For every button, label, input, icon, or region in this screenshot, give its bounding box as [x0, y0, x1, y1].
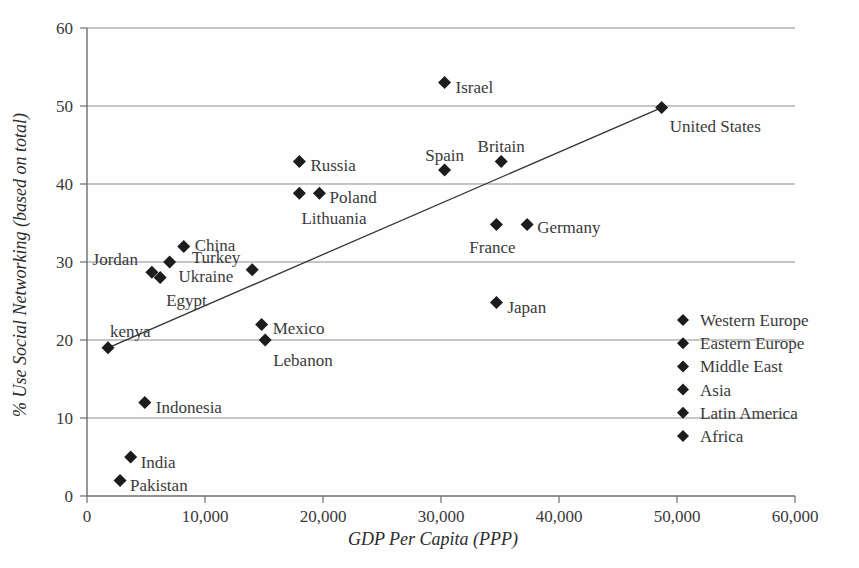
data-point-label: Jordan: [93, 250, 139, 269]
x-axis-tick-labels: 010,00020,00030,00040,00050,00060,000: [83, 507, 819, 526]
legend-marker-5: [677, 430, 689, 442]
data-point-marker: [114, 474, 127, 487]
data-point-marker: [124, 451, 137, 464]
x-axis-title: GDP Per Capita (PPP): [348, 529, 518, 550]
x-tick-label-1: 10,000: [182, 507, 229, 526]
y-tick-label-0: 0: [65, 487, 74, 506]
legend-marker-2: [677, 360, 689, 372]
data-point-label: Turkey: [192, 248, 241, 267]
legend-marker-4: [677, 407, 689, 419]
data-point-label: United States: [670, 117, 761, 136]
x-tick-label-5: 50,000: [654, 507, 701, 526]
data-point-marker: [163, 256, 176, 269]
data-point-label: Japan: [507, 298, 546, 317]
legend-label-5: Africa: [700, 427, 744, 446]
data-point-marker: [313, 187, 326, 200]
data-point-marker: [490, 296, 503, 309]
x-tick-label-4: 40,000: [536, 507, 583, 526]
data-point-marker: [102, 341, 115, 354]
x-tick-label-3: 30,000: [418, 507, 465, 526]
legend-marker-1: [677, 337, 689, 349]
data-points: PakistanIndiaIndonesiakenyaJordanEgyptUk…: [93, 76, 761, 495]
legend: Western EuropeEastern EuropeMiddle EastA…: [677, 311, 809, 446]
data-point-marker: [259, 334, 272, 347]
data-point-label: kenya: [110, 322, 151, 341]
data-point-marker: [255, 318, 268, 331]
data-point-marker: [293, 187, 306, 200]
data-point-label: Poland: [329, 188, 377, 207]
axes: [80, 28, 795, 503]
data-point-label: Lebanon: [273, 351, 333, 370]
legend-marker-3: [677, 384, 689, 396]
data-point-marker: [490, 218, 503, 231]
data-point-label: India: [141, 453, 176, 472]
data-point-marker: [655, 101, 668, 114]
y-tick-label-3: 30: [56, 253, 73, 272]
data-point-label: Lithuania: [301, 209, 367, 228]
data-point-marker: [521, 218, 534, 231]
x-tick-label-2: 20,000: [300, 507, 347, 526]
data-point-label: Ukraine: [179, 267, 234, 286]
legend-marker-0: [677, 314, 689, 326]
scatter-plot: 010,00020,00030,00040,00050,00060,000 01…: [0, 0, 859, 568]
chart-container: 010,00020,00030,00040,00050,00060,000 01…: [0, 0, 859, 568]
data-point-label: France: [469, 238, 515, 257]
data-point-marker: [438, 163, 451, 176]
data-point-marker: [246, 263, 259, 276]
data-point-marker: [495, 155, 508, 168]
data-point-label: Britain: [478, 137, 526, 156]
data-point-marker: [293, 155, 306, 168]
legend-label-0: Western Europe: [700, 311, 809, 330]
data-point-label: Mexico: [273, 319, 325, 338]
data-point-marker: [438, 76, 451, 89]
y-axis-title: % Use Social Networking (based on total): [10, 113, 31, 417]
legend-label-3: Asia: [700, 381, 732, 400]
y-tick-label-6: 60: [56, 19, 73, 38]
legend-label-2: Middle East: [700, 357, 783, 376]
legend-label-4: Latin America: [700, 404, 798, 423]
y-tick-label-5: 50: [56, 97, 73, 116]
data-point-label: Russia: [310, 156, 356, 175]
y-tick-label-2: 20: [56, 331, 73, 350]
data-point-label: Indonesia: [156, 398, 223, 417]
data-point-marker: [138, 396, 151, 409]
x-tick-label-6: 60,000: [772, 507, 819, 526]
data-point-label: Spain: [425, 146, 464, 165]
y-tick-label-1: 10: [56, 409, 73, 428]
data-point-label: Israel: [456, 78, 494, 97]
data-point-label: Germany: [537, 218, 601, 237]
data-point-label: Egypt: [166, 291, 207, 310]
gridlines: [87, 28, 795, 418]
y-axis-tick-labels: 0102030405060: [56, 19, 73, 506]
y-tick-label-4: 40: [56, 175, 73, 194]
data-point-label: Pakistan: [130, 476, 188, 495]
legend-label-1: Eastern Europe: [700, 334, 804, 353]
data-point-marker: [177, 240, 190, 253]
x-tick-label-0: 0: [83, 507, 92, 526]
